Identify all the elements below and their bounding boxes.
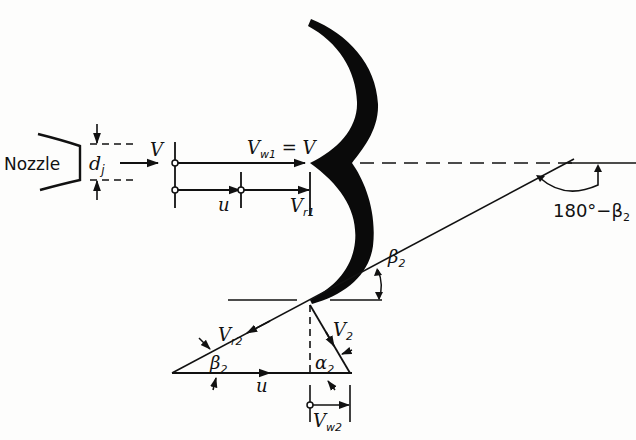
alpha2-label: α2 [315,352,334,376]
outlet-relative-label: Vr2 [218,324,243,348]
beta2-lower-label: β2 [209,352,227,376]
pelton-bucket [308,19,378,304]
outlet-blade-speed-label: u [256,375,268,396]
supplement-angle-label: 180°−β2 [553,200,630,224]
jet-diameter-label: dj [89,152,105,177]
beta2-upper-arrow-top [374,268,382,276]
inlet-pivot-circles [172,160,244,193]
jet-velocity-label: V [150,139,165,160]
inlet-whirl-label: Vw1 = V [247,137,318,161]
supplement-arc-arrow-right [594,164,602,172]
beta2-upper-arrow-bottom [375,292,383,300]
diagram-canvas: Nozzle dj V Vw1 = V u Vr1 180°−β2 [0,0,636,440]
pelton-bucket-diagram: Nozzle dj V Vw1 = V u Vr1 180°−β2 [0,0,636,440]
outlet-absolute-label: V2 [333,319,353,343]
outlet-whirl-pivot-circle [307,402,313,408]
inlet-blade-speed-label: u [218,194,230,215]
supplement-angle-arc [540,168,598,191]
outlet-relative-arrow [247,321,270,333]
nozzle-label: Nozzle [4,154,60,174]
outlet-whirl-label: Vw2 [313,410,342,434]
